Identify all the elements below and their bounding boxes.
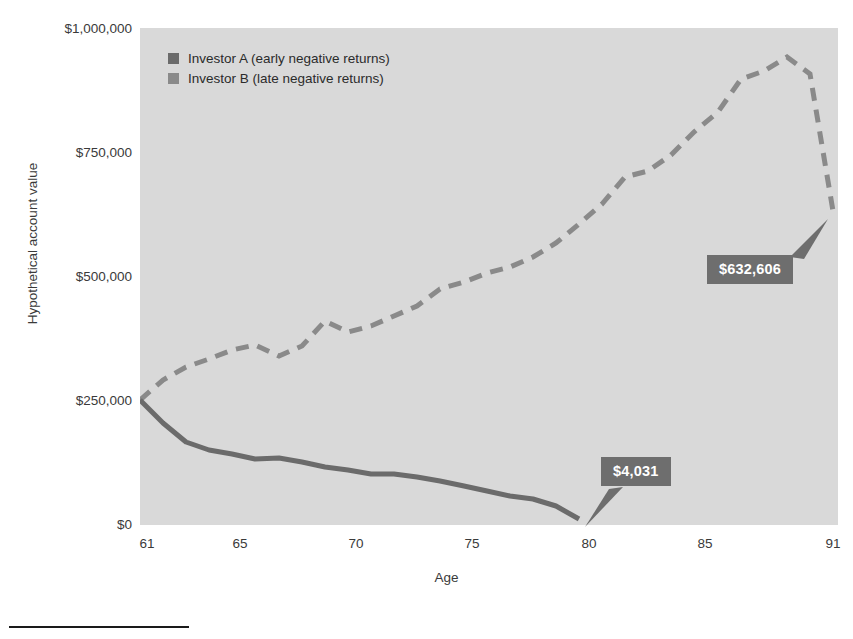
- callout-investor-a-pointer: [585, 487, 625, 529]
- x-axis-tick-91: 91: [813, 536, 853, 551]
- y-axis-tick-250000: $250,000: [0, 393, 132, 408]
- x-axis-title-text: Age: [434, 570, 458, 585]
- callout-investor-b: $632,606: [707, 255, 793, 284]
- legend-label-investor-b: Investor B (late negative returns): [188, 72, 384, 86]
- callout-investor-b-label: $632,606: [719, 261, 781, 277]
- x-axis-tick-80: 80: [569, 536, 609, 551]
- legend-swatch-investor-b-icon: [168, 73, 179, 84]
- legend-label-investor-a: Investor A (early negative returns): [188, 52, 390, 66]
- callout-investor-b-pointer: [782, 219, 828, 261]
- footnote-divider: [9, 626, 189, 628]
- callout-investor-a-label: $4,031: [613, 463, 659, 479]
- legend-item-investor-a: Investor A (early negative returns): [168, 52, 390, 66]
- x-axis-tick-61: 61: [127, 536, 167, 551]
- y-axis-tick-0: $0: [0, 517, 132, 532]
- x-axis-tick-70: 70: [336, 536, 376, 551]
- chart-figure: $1,000,000 $750,000 $500,000 $250,000 $0…: [0, 0, 853, 639]
- series-line-investor-a: [140, 400, 579, 519]
- y-axis-tick-1000000: $1,000,000: [0, 21, 132, 36]
- y-axis-title: Hypothetical account value: [25, 144, 40, 344]
- x-axis-tick-65: 65: [220, 536, 260, 551]
- x-axis-tick-85: 85: [685, 536, 725, 551]
- chart-legend: Investor A (early negative returns) Inve…: [168, 52, 390, 91]
- legend-item-investor-b: Investor B (late negative returns): [168, 72, 390, 86]
- callout-investor-a: $4,031: [601, 457, 671, 486]
- series-line-investor-b: [140, 57, 833, 400]
- y-axis-tick-500000: $500,000: [0, 269, 132, 284]
- y-axis-tick-750000: $750,000: [0, 145, 132, 160]
- x-axis-title: Age: [0, 570, 853, 585]
- legend-swatch-investor-a-icon: [168, 53, 179, 64]
- x-axis-tick-75: 75: [452, 536, 492, 551]
